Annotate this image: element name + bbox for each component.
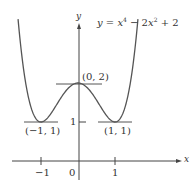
- y-axis-arrow-icon: [77, 23, 81, 29]
- y-axis-label: y: [76, 12, 81, 21]
- y-tick-label-1: 1: [70, 117, 76, 127]
- x-tick-label-0: 0: [69, 168, 75, 178]
- min-right-point-label: (1, 1): [104, 126, 131, 136]
- function-curve: [18, 19, 138, 122]
- graph-figure: y y = x4 − 2x2 + 2 (0, 2) (−1, 1) (1, 1)…: [0, 0, 193, 184]
- x-tick-label-neg1: −1: [35, 168, 50, 178]
- equation-label: y = x4 − 2x2 + 2: [97, 17, 179, 28]
- x-tick-label-1: 1: [112, 168, 118, 178]
- x-axis-arrow-icon: [176, 159, 182, 163]
- max-point-label: (0, 2): [82, 72, 109, 82]
- min-left-point-label: (−1, 1): [25, 126, 60, 136]
- x-axis-label: x: [184, 155, 189, 164]
